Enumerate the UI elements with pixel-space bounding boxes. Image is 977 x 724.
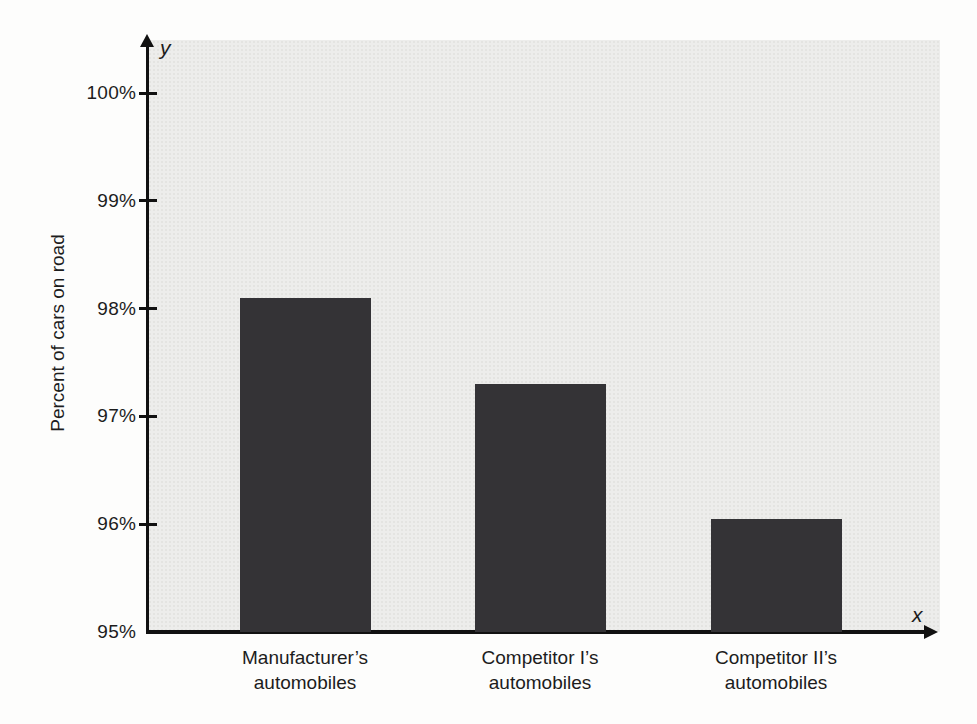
y-tick-label: 97% — [60, 405, 136, 427]
x-axis-letter: x — [912, 603, 923, 627]
y-tick-label: 96% — [60, 513, 136, 535]
bar-manufacturers — [240, 298, 371, 632]
bar-chart-figure: 100%99%98%97%96%95% Manufacturer’s autom… — [0, 0, 977, 724]
bar-competitor-2 — [711, 519, 842, 632]
y-tick-label: 100% — [60, 82, 136, 104]
y-tick-label: 99% — [60, 190, 136, 212]
y-axis-title: Percent of cars on road — [47, 213, 69, 453]
category-label-competitor-1: Competitor I’s automobiles — [430, 645, 650, 695]
y-axis — [146, 44, 149, 634]
y-tick-mark — [139, 415, 157, 418]
y-tick-mark — [139, 307, 157, 310]
y-tick-label: 98% — [60, 298, 136, 320]
y-tick-mark — [139, 199, 157, 202]
category-label-competitor-2: Competitor II’s automobiles — [666, 645, 886, 695]
y-tick-label: 95% — [60, 621, 136, 643]
y-axis-letter: y — [160, 36, 171, 60]
bar-competitor-1 — [475, 384, 606, 632]
x-axis-arrow-icon — [924, 625, 938, 639]
y-axis-arrow-icon — [140, 34, 154, 47]
y-tick-mark — [139, 523, 157, 526]
y-tick-mark — [139, 92, 157, 95]
category-label-manufacturers: Manufacturer’s automobiles — [195, 645, 415, 695]
